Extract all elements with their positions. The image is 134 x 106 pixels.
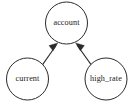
node-high-rate[interactable]: high_rate bbox=[85, 58, 127, 100]
arrowhead-current-to-account bbox=[49, 43, 58, 51]
node-label-account: account bbox=[53, 18, 80, 27]
node-label-high-rate: high_rate bbox=[90, 74, 122, 83]
node-label-current: current bbox=[16, 74, 41, 83]
arrowhead-high-rate-to-account bbox=[76, 43, 85, 51]
edge-current-to-account bbox=[43, 43, 58, 65]
graph-canvas: account current high_rate bbox=[0, 0, 134, 106]
graph-edges bbox=[43, 43, 92, 65]
edge-high-rate-to-account bbox=[76, 43, 92, 65]
graph-diagram: account current high_rate bbox=[0, 0, 134, 106]
node-account[interactable]: account bbox=[46, 2, 88, 44]
graph-nodes: account current high_rate bbox=[7, 2, 128, 100]
node-current[interactable]: current bbox=[7, 58, 49, 100]
